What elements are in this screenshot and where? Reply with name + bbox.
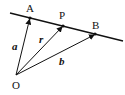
- line-through-a-b: [10, 13, 123, 41]
- vector-r-label: r: [39, 33, 44, 45]
- point-p-label: P: [59, 9, 65, 21]
- vector-b-arrow: [16, 35, 94, 75]
- vector-b-label: b: [59, 55, 65, 67]
- vector-diagram: A P B O a r b: [0, 0, 125, 95]
- vector-a-label: a: [12, 40, 18, 52]
- vector-a-arrow: [16, 20, 30, 76]
- point-b-label: B: [92, 19, 99, 31]
- origin-o-label: O: [12, 79, 20, 91]
- point-a-label: A: [26, 2, 34, 14]
- point-b-dot: [93, 32, 96, 35]
- point-p-dot: [61, 24, 64, 27]
- point-a-dot: [28, 16, 31, 19]
